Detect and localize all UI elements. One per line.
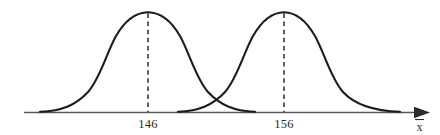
axis-arrow-icon xyxy=(414,107,430,118)
axis-variable-label: x xyxy=(417,121,423,133)
axis-variable-group: x xyxy=(415,120,424,133)
distribution-curve-b xyxy=(178,12,400,112)
tick-label-156: 156 xyxy=(274,117,294,131)
tick-label-146: 146 xyxy=(138,117,158,131)
figure-canvas: 146 156 x xyxy=(0,0,440,135)
normal-curves-figure: 146 156 x xyxy=(0,0,440,135)
